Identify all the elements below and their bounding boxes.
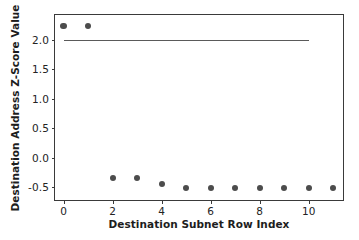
x-tick-mark [260,200,261,204]
data-point [257,185,263,191]
data-point [183,185,189,191]
data-point [134,175,140,181]
data-point [281,185,287,191]
y-tick-mark [52,187,56,188]
x-tick-mark [309,200,310,204]
y-tick-label: 1.0 [32,93,49,105]
data-point [232,185,238,191]
data-point [330,185,336,191]
data-point [60,23,66,29]
chart-figure: Destination Address Z-Score Value -0.50.… [0,0,359,240]
y-tick-label: -0.5 [28,181,49,193]
data-point [85,23,91,29]
data-point [208,185,214,191]
data-point [110,175,116,181]
data-point [159,181,165,187]
x-axis-title: Destination Subnet Row Index [54,218,344,230]
y-tick-mark [52,158,56,159]
y-axis-title: Destination Address Z-Score Value [8,14,22,201]
x-tick-label: 6 [207,205,214,217]
y-tick-label: 2.0 [32,34,49,46]
x-tick-mark [64,200,65,204]
x-tick-mark [162,200,163,204]
y-tick-mark [52,69,56,70]
plot-area: -0.50.00.51.01.52.00246810 [54,14,344,201]
data-point [306,185,312,191]
x-tick-mark [211,200,212,204]
x-tick-label: 0 [60,205,67,217]
y-tick-mark [52,99,56,100]
x-tick-label: 8 [256,205,263,217]
y-tick-mark [52,40,56,41]
x-tick-label: 10 [302,205,316,217]
y-tick-label: 0.5 [32,122,49,134]
y-tick-label: 1.5 [32,63,49,75]
x-tick-label: 2 [109,205,116,217]
x-tick-label: 4 [158,205,165,217]
y-tick-label: 0.0 [32,152,49,164]
y-axis-title-text: Destination Address Z-Score Value [9,4,21,211]
x-tick-mark [113,200,114,204]
data-layer [55,15,343,200]
threshold-line [64,40,309,42]
y-tick-mark [52,128,56,129]
